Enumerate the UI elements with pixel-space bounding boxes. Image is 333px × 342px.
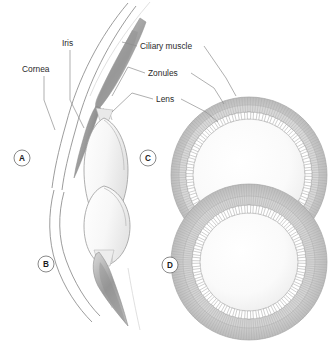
panel-letter-b: B (38, 256, 54, 272)
label-zonules: Zonules (148, 68, 178, 78)
diagram-canvas: A B (0, 0, 333, 342)
panel-letter-b-text: B (43, 260, 49, 269)
panel-letter-d: D (162, 257, 178, 273)
panel-letter-d-text: D (167, 261, 173, 270)
label-ciliary-muscle: Ciliary muscle (140, 41, 192, 51)
panel-letter-c-text: C (145, 154, 151, 163)
eye-accommodation-figure: A B (0, 0, 333, 342)
panel-letter-a: A (14, 150, 30, 166)
label-iris: Iris (62, 38, 73, 48)
panel-letter-c: C (140, 150, 156, 166)
panel-letter-a-text: A (19, 154, 25, 163)
label-cornea: Cornea (22, 64, 50, 74)
label-lens: Lens (156, 94, 174, 104)
lens-aperture-d (200, 213, 298, 311)
